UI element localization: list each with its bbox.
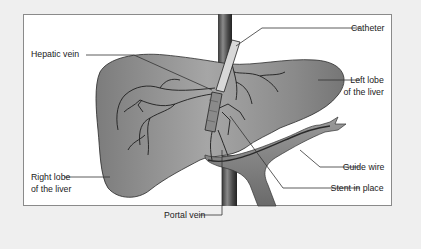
label-portal-vein: Portal vein [164, 209, 205, 221]
liver-illustration [0, 0, 421, 249]
label-left-lobe-line2: of the liver [344, 86, 384, 98]
label-stent: Stent in place [331, 182, 384, 194]
label-right-lobe: Right lobe of the liver [31, 171, 71, 195]
label-catheter: Catheter [350, 22, 384, 34]
label-left-lobe: Left lobe of the liver [344, 74, 384, 98]
label-right-lobe-line2: of the liver [31, 183, 71, 195]
label-right-lobe-line1: Right lobe [31, 171, 71, 183]
label-guide-wire: Guide wire [342, 161, 384, 173]
label-left-lobe-line1: Left lobe [344, 74, 384, 86]
liver-shape [96, 54, 344, 197]
label-hepatic-vein: Hepatic vein [31, 48, 79, 60]
